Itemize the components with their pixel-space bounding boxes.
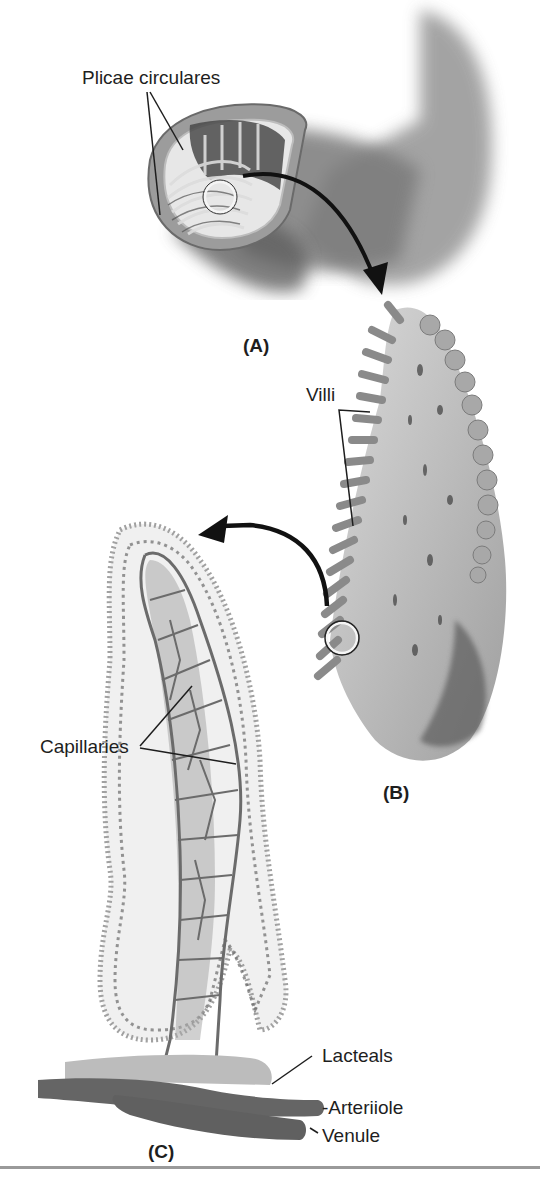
panel-label-c: (C): [148, 1142, 174, 1161]
label-plicae-circulares: Plicae circulares: [82, 68, 220, 87]
panel-c-villus: [38, 524, 324, 1140]
label-villi: Villi: [306, 385, 335, 404]
panel-label-a: (A): [243, 336, 269, 355]
label-arteriole: -Arteriiole: [322, 1098, 403, 1117]
label-venule: Venule: [322, 1126, 380, 1145]
panel-a-intestine: [147, 10, 492, 295]
label-capillaries: Capillaries: [40, 737, 129, 756]
bottom-divider: [0, 1166, 540, 1169]
label-lacteals: Lacteals: [322, 1046, 393, 1065]
intestine-illustration: [0, 0, 540, 1180]
panel-label-b: (B): [383, 783, 409, 802]
